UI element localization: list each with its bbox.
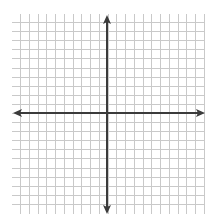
coordinate-plane bbox=[0, 0, 212, 224]
